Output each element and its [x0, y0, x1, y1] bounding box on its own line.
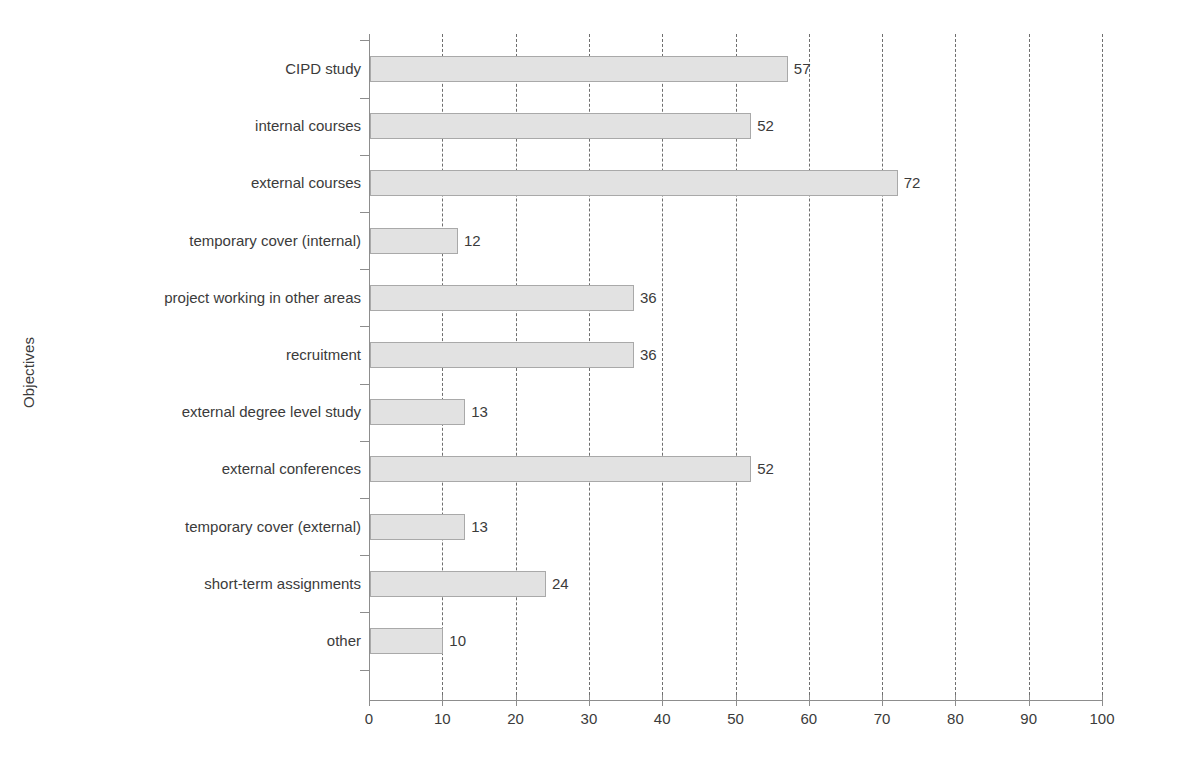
- category-label: other: [31, 628, 361, 654]
- x-tick-70: [882, 695, 883, 706]
- category-label: short-term assignments: [31, 571, 361, 597]
- x-tick-100: [1102, 695, 1103, 706]
- x-tick-label-60: 60: [779, 710, 839, 727]
- bar-value-label: 57: [794, 56, 811, 82]
- category-tick-6: [360, 384, 370, 385]
- chart-page: Objectives CIPD studyinternal coursesext…: [0, 0, 1178, 781]
- x-tick-label-70: 70: [852, 710, 912, 727]
- category-label: project working in other areas: [31, 285, 361, 311]
- bar[interactable]: [370, 399, 465, 425]
- gridline-70: [882, 34, 883, 700]
- x-tick-40: [662, 695, 663, 706]
- bar[interactable]: [370, 113, 751, 139]
- x-tick-0: [369, 695, 370, 706]
- bar-value-label: 52: [757, 113, 774, 139]
- bar[interactable]: [370, 628, 443, 654]
- gridline-90: [1029, 34, 1030, 700]
- x-tick-label-90: 90: [999, 710, 1059, 727]
- x-tick-60: [809, 695, 810, 706]
- x-tick-label-10: 10: [412, 710, 472, 727]
- category-tick-0: [360, 40, 370, 41]
- bar-value-label: 72: [904, 170, 921, 196]
- x-tick-label-100: 100: [1072, 710, 1132, 727]
- bar[interactable]: [370, 170, 898, 196]
- bar-value-label: 24: [552, 571, 569, 597]
- x-tick-90: [1029, 695, 1030, 706]
- plot-area: 0102030405060708090100 57527212363613521…: [369, 34, 1102, 701]
- gridline-100: [1102, 34, 1103, 700]
- x-tick-label-50: 50: [706, 710, 766, 727]
- x-tick-10: [442, 695, 443, 706]
- category-label: external conferences: [31, 456, 361, 482]
- x-tick-30: [589, 695, 590, 706]
- category-tick-8: [360, 498, 370, 499]
- category-label: temporary cover (internal): [31, 228, 361, 254]
- x-tick-label-80: 80: [925, 710, 985, 727]
- category-label: recruitment: [31, 342, 361, 368]
- category-tick-2: [360, 155, 370, 156]
- x-tick-20: [516, 695, 517, 706]
- bar[interactable]: [370, 514, 465, 540]
- bar[interactable]: [370, 571, 546, 597]
- category-tick-11: [360, 670, 370, 671]
- x-tick-50: [736, 695, 737, 706]
- category-label: internal courses: [31, 113, 361, 139]
- category-tick-4: [360, 269, 370, 270]
- bar-value-label: 10: [449, 628, 466, 654]
- bar-value-label: 13: [471, 514, 488, 540]
- category-tick-10: [360, 612, 370, 613]
- category-label-column: CIPD studyinternal coursesexternal cours…: [30, 34, 361, 701]
- x-tick-label-30: 30: [559, 710, 619, 727]
- bar[interactable]: [370, 56, 788, 82]
- bar-value-label: 52: [757, 456, 774, 482]
- bar[interactable]: [370, 456, 751, 482]
- category-label: temporary cover (external): [31, 514, 361, 540]
- gridline-60: [809, 34, 810, 700]
- x-tick-label-40: 40: [632, 710, 692, 727]
- bar[interactable]: [370, 285, 634, 311]
- bar-value-label: 12: [464, 228, 481, 254]
- category-label: external degree level study: [31, 399, 361, 425]
- category-label: external courses: [31, 170, 361, 196]
- category-tick-5: [360, 326, 370, 327]
- category-label: CIPD study: [31, 56, 361, 82]
- category-tick-1: [360, 98, 370, 99]
- gridline-80: [955, 34, 956, 700]
- x-tick-label-0: 0: [339, 710, 399, 727]
- bar[interactable]: [370, 342, 634, 368]
- bar-value-label: 36: [640, 342, 657, 368]
- x-tick-label-20: 20: [486, 710, 546, 727]
- bar-value-label: 13: [471, 399, 488, 425]
- category-tick-9: [360, 555, 370, 556]
- x-tick-80: [955, 695, 956, 706]
- category-tick-7: [360, 441, 370, 442]
- bar[interactable]: [370, 228, 458, 254]
- category-tick-3: [360, 212, 370, 213]
- bar-value-label: 36: [640, 285, 657, 311]
